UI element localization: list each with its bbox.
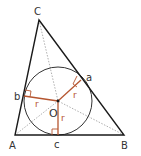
angle-bisectors: [15, 20, 124, 135]
triangle-abc: [15, 20, 124, 135]
incenter-point: [57, 100, 60, 103]
incenter-label: O: [49, 107, 58, 120]
tangent-label-a: a: [86, 72, 92, 83]
right-angle-marker-c: [52, 129, 58, 135]
vertex-label-a: A: [9, 140, 16, 151]
tangent-label-c: c: [54, 139, 60, 150]
right-angle-markers: [25, 76, 77, 135]
bisector-from-b: [58, 101, 124, 135]
vertex-label-c: C: [34, 6, 41, 17]
radius-label-c: r: [61, 113, 65, 123]
vertex-label-b: B: [121, 140, 128, 151]
radius-label-a: r: [73, 90, 77, 100]
tangent-label-b: b: [14, 91, 20, 102]
right-angle-marker-a: [73, 76, 77, 87]
radius-label-b: r: [35, 99, 39, 109]
incircle-diagram: C A B O a b c r r r: [0, 0, 141, 156]
radius-to-a: [58, 80, 81, 101]
radius-to-b: [24, 96, 58, 101]
